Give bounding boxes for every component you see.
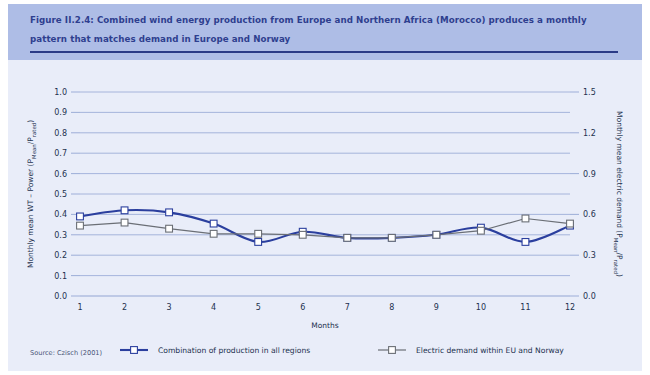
x-axis-tick-label: 9 (434, 303, 439, 312)
data-point-marker (478, 227, 485, 234)
data-point-marker (77, 222, 84, 229)
data-point-marker (166, 225, 173, 232)
chart-legend: Combination of production in all regions… (120, 346, 564, 355)
x-axis-tick-label: 7 (345, 303, 350, 312)
x-axis-tick-label: 11 (520, 303, 530, 312)
y-axis-tick-labels: 0.00.10.20.30.40.50.60.70.80.91.0 (54, 88, 67, 301)
data-point-marker (299, 231, 306, 238)
data-point-marker (166, 209, 173, 216)
series-lines (80, 210, 570, 242)
data-point-marker (522, 215, 529, 222)
title-divider (30, 51, 618, 53)
x-axis-tick-label: 8 (389, 303, 394, 312)
y2-axis-tick-label: 0.0 (583, 292, 596, 301)
data-point-marker (433, 231, 440, 238)
y2-axis-tick-label: 1.2 (583, 129, 596, 138)
data-point-marker (77, 213, 84, 220)
legend-marker (131, 347, 138, 354)
legend-marker (389, 347, 396, 354)
data-point-marker (344, 234, 351, 241)
data-point-marker (210, 230, 217, 237)
data-point-marker (255, 239, 262, 246)
y-axis-title: Monthly mean WT – Power (PMean/Prated) (26, 120, 37, 268)
y-axis-tick-label: 0.2 (54, 251, 67, 260)
x-axis-tick-label: 4 (211, 303, 216, 312)
y-axis-tick-label: 0.9 (54, 108, 67, 117)
y2-axis-tick-label: 0.3 (583, 251, 596, 260)
x-axis-tick-label: 5 (256, 303, 261, 312)
y-axis-tick-label: 1.0 (54, 88, 67, 97)
x-axis-tick-label: 3 (167, 303, 172, 312)
data-point-marker (121, 207, 128, 214)
data-point-marker (567, 220, 574, 227)
legend-label: Electric demand within EU and Norway (416, 346, 564, 355)
y2-axis-tick-labels: 0.00.30.60.91.21.5 (583, 88, 596, 301)
x-axis-tick-label: 1 (77, 303, 82, 312)
x-axis-title: Months (311, 321, 339, 330)
gridlines (80, 92, 570, 296)
x-axis-tick-label: 6 (300, 303, 305, 312)
legend-item[interactable]: Electric demand within EU and Norway (378, 346, 564, 355)
y2-axis-title: Monthly mean electric demand (PMean/Prat… (613, 111, 624, 277)
data-point-marker (388, 234, 395, 241)
data-point-marker (210, 220, 217, 227)
y-axis-tick-label: 0.8 (54, 129, 67, 138)
figure-title: Figure II.2.4: Combined wind energy prod… (30, 11, 610, 49)
legend-label: Combination of production in all regions (158, 346, 310, 355)
y-axis-tick-label: 0.6 (54, 170, 67, 179)
y2-axis-tick-label: 1.5 (583, 88, 596, 97)
y2-axis-tick-label: 0.6 (583, 210, 596, 219)
source-note: Source: Czisch (2001) (30, 349, 102, 357)
y-axis-tick-label: 0.4 (54, 210, 67, 219)
chart-area: 0.00.10.20.30.40.50.60.70.80.91.0 0.00.3… (8, 60, 642, 371)
x-axis-tick-label: 12 (565, 303, 575, 312)
data-point-marker (522, 239, 529, 246)
x-axis-tick-labels: 123456789101112 (77, 303, 575, 312)
y-axis-tick-label: 0.0 (54, 292, 67, 301)
y-axis-tick-label: 0.5 (54, 190, 67, 199)
line-chart: 0.00.10.20.30.40.50.60.70.80.91.0 0.00.3… (8, 60, 642, 371)
y-axis-tick-label: 0.7 (54, 149, 67, 158)
y-axis-tick-label: 0.1 (54, 272, 67, 281)
y-axis-tick-label: 0.3 (54, 231, 67, 240)
data-point-marker (121, 219, 128, 226)
figure-container: Figure II.2.4: Combined wind energy prod… (8, 4, 642, 371)
x-axis-tick-label: 2 (122, 303, 127, 312)
legend-item[interactable]: Combination of production in all regions (120, 346, 310, 355)
data-point-marker (255, 230, 262, 237)
y2-axis-tick-label: 0.9 (583, 170, 596, 179)
x-axis-tick-label: 10 (476, 303, 486, 312)
